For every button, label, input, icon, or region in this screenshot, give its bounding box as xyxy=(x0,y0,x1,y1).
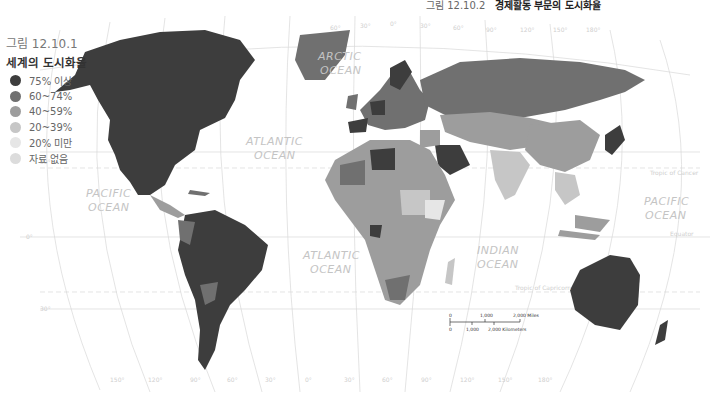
svg-text:30°: 30° xyxy=(265,376,276,383)
svg-text:1,000: 1,000 xyxy=(466,327,479,332)
india xyxy=(490,150,530,200)
svg-text:90°: 90° xyxy=(486,26,497,33)
russia xyxy=(420,58,645,118)
australia xyxy=(570,255,640,330)
svg-text:OCEAN: OCEAN xyxy=(320,64,362,77)
svg-text:180°: 180° xyxy=(538,376,552,383)
svg-text:150°: 150° xyxy=(553,26,567,33)
svg-text:OCEAN: OCEAN xyxy=(477,258,519,271)
pacific-ocean-west-label: PACIFIC xyxy=(644,195,689,208)
svg-text:120°: 120° xyxy=(460,376,474,383)
world-map: ARCTIC OCEAN ATLANTIC OCEAN PACIFIC OCEA… xyxy=(0,0,718,395)
svg-text:90°: 90° xyxy=(421,376,432,383)
svg-text:Equator: Equator xyxy=(670,230,694,238)
svg-text:150°: 150° xyxy=(498,376,512,383)
svg-text:0°: 0° xyxy=(305,376,312,383)
swatch-icon xyxy=(10,137,21,148)
svg-text:30°: 30° xyxy=(344,376,355,383)
svg-text:30°: 30° xyxy=(360,22,371,29)
svg-text:30°: 30° xyxy=(420,22,431,29)
legend-item: 75% 이상 xyxy=(6,73,87,89)
svg-text:90°: 90° xyxy=(190,376,201,383)
svg-text:2,000 Miles: 2,000 Miles xyxy=(513,313,539,318)
swatch-icon xyxy=(10,106,21,117)
svg-text:120°: 120° xyxy=(148,376,162,383)
land xyxy=(55,30,668,370)
swatch-icon xyxy=(10,122,21,133)
svg-text:OCEAN: OCEAN xyxy=(310,263,352,276)
indian-ocean-label: INDIAN xyxy=(477,244,519,257)
svg-text:OCEAN: OCEAN xyxy=(645,209,687,222)
svg-text:0°: 0° xyxy=(26,233,33,240)
pacific-ocean-east-label: PACIFIC xyxy=(86,187,131,200)
swatch-icon xyxy=(10,153,21,164)
svg-text:120°: 120° xyxy=(520,26,534,33)
svg-text:Tropic of Cancer: Tropic of Cancer xyxy=(649,169,699,177)
legend-title: 세계의 도시화율 xyxy=(6,54,87,70)
atlantic-ocean-south-label: ATLANTIC xyxy=(302,249,360,262)
legend: 그림 12.10.1 세계의 도시화율 75% 이상 60~74% 40~59%… xyxy=(6,34,87,166)
svg-text:60°: 60° xyxy=(453,24,464,31)
svg-text:180°: 180° xyxy=(586,26,600,33)
svg-text:2,000 Kilometers: 2,000 Kilometers xyxy=(488,327,527,332)
arctic-ocean-label: ARCTIC xyxy=(317,50,362,63)
svg-text:0°: 0° xyxy=(390,20,397,27)
legend-figure-number: 그림 12.10.1 xyxy=(6,34,87,51)
china xyxy=(525,120,600,172)
svg-text:1,000: 1,000 xyxy=(480,313,493,318)
legend-item: 40~59% xyxy=(6,104,87,120)
scale-bar: 0 1,000 2,000 Miles 0 1,000 2,000 Kilome… xyxy=(449,313,539,332)
svg-text:OCEAN: OCEAN xyxy=(254,149,296,162)
svg-text:0: 0 xyxy=(449,327,452,332)
legend-item: 20% 미만 xyxy=(6,135,87,151)
svg-text:0: 0 xyxy=(449,313,452,318)
central-america xyxy=(150,195,185,218)
svg-text:60°: 60° xyxy=(330,24,341,31)
swatch-icon xyxy=(10,75,21,86)
svg-text:150°: 150° xyxy=(110,376,124,383)
swatch-icon xyxy=(10,91,21,102)
atlantic-ocean-north-label: ATLANTIC xyxy=(245,135,303,148)
svg-text:60°: 60° xyxy=(227,376,238,383)
legend-item: 20~39% xyxy=(6,120,87,136)
legend-item: 60~74% xyxy=(6,89,87,105)
svg-text:Tropic of Capricorn: Tropic of Capricorn xyxy=(514,284,571,292)
svg-text:OCEAN: OCEAN xyxy=(88,201,130,214)
svg-text:30°: 30° xyxy=(40,305,51,312)
legend-item: 자료 없음 xyxy=(6,151,87,167)
latitude-labels: 30° 0° 30° xyxy=(26,158,51,312)
svg-text:60°: 60° xyxy=(382,376,393,383)
